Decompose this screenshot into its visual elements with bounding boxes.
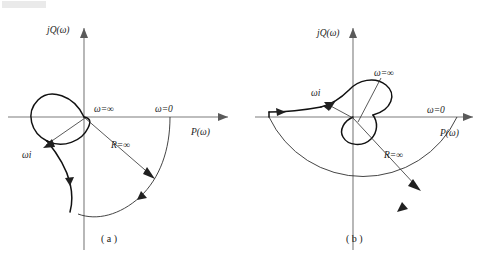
axes-b (255, 28, 473, 250)
radius-pointer-arrow-a (143, 167, 155, 179)
figure-panel-a: jQ(ω) P(ω) ω=∞ ω=0 ωi R=∞ ( a ) (0, 0, 244, 264)
label-omega-zero-b: ω=0 (427, 105, 445, 115)
nyquist-diagram-b: jQ(ω) P(ω) ω=∞ ω=0 ωi R=∞ ( b ) (245, 0, 489, 264)
radius-pointer-arrow-b (408, 179, 421, 191)
arc-direction-arrow-a (137, 191, 147, 200)
panel-caption-b: ( b ) (346, 233, 363, 245)
label-omega-i-a: ωi (22, 150, 32, 160)
y-axis-arrowhead-a (80, 28, 88, 38)
label-radius-infinity-b: R=∞ (383, 150, 403, 160)
locus-lower-branch-a (47, 141, 72, 212)
axis-label-x-a: P(ω) (190, 127, 210, 138)
axes-a (8, 28, 228, 250)
locus-upper-loop-a (31, 94, 84, 141)
label-omega-i-b: ωi (311, 88, 321, 98)
figure-panel-b: jQ(ω) P(ω) ω=∞ ω=0 ωi R=∞ ( b ) (245, 0, 489, 264)
polar-locus-b (269, 80, 392, 144)
locus-big-loop-b (321, 80, 392, 115)
figure-page: jQ(ω) P(ω) ω=∞ ω=0 ωi R=∞ ( a ) (0, 0, 489, 264)
label-omega-infinity-b: ω=∞ (374, 68, 394, 78)
closing-arc-a (78, 117, 170, 217)
locus-direction-arrow-left-b (276, 108, 286, 116)
nyquist-diagram-a: jQ(ω) P(ω) ω=∞ ω=0 ωi R=∞ ( a ) (0, 0, 244, 264)
locus-direction-arrow-a (65, 177, 74, 186)
label-radius-infinity-a: R=∞ (110, 140, 130, 150)
label-omega-infinity-a: ω=∞ (94, 104, 114, 114)
axis-label-y-a: jQ(ω) (45, 25, 70, 36)
x-axis-arrowhead-a (218, 113, 228, 121)
axis-label-y-b: jQ(ω) (315, 28, 340, 39)
infinite-radius-arc-a (78, 117, 170, 217)
closing-arc-b (269, 117, 457, 177)
polar-locus-a (31, 94, 90, 212)
label-omega-zero-a: ω=0 (155, 104, 173, 114)
omega-infinity-leader-line-b (358, 78, 381, 122)
axis-label-x-b: P(ω) (439, 128, 459, 139)
panel-caption-a: ( a ) (101, 233, 117, 245)
y-axis-arrowhead-b (349, 28, 357, 38)
arc-direction-arrow-b (397, 202, 408, 212)
x-axis-arrowhead-b (463, 113, 473, 121)
